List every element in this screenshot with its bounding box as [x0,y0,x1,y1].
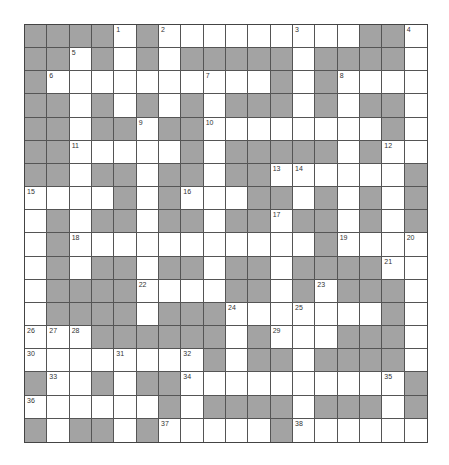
grid-cell[interactable] [360,233,382,256]
grid-cell[interactable] [70,187,92,210]
grid-cell[interactable] [226,349,248,372]
grid-cell[interactable]: 12 [382,141,404,164]
grid-cell[interactable] [293,233,315,256]
grid-cell[interactable] [204,372,226,395]
grid-cell[interactable] [338,118,360,141]
grid-cell[interactable] [181,71,203,94]
grid-cell[interactable] [25,303,47,326]
grid-cell[interactable]: 9 [137,118,159,141]
grid-cell[interactable] [159,48,181,71]
grid-cell[interactable] [293,48,315,71]
grid-cell[interactable] [382,210,404,233]
grid-cell[interactable] [70,210,92,233]
grid-cell[interactable] [382,187,404,210]
grid-cell[interactable] [226,372,248,395]
grid-cell[interactable] [114,419,136,442]
grid-cell[interactable] [405,349,427,372]
grid-cell[interactable] [248,303,270,326]
grid-cell[interactable] [315,118,337,141]
grid-cell[interactable] [92,71,114,94]
grid-cell[interactable] [293,326,315,349]
grid-cell[interactable] [70,349,92,372]
grid-cell[interactable] [382,71,404,94]
grid-cell[interactable]: 32 [181,349,203,372]
grid-cell[interactable] [204,233,226,256]
grid-cell[interactable]: 27 [47,326,69,349]
grid-cell[interactable] [70,118,92,141]
grid-cell[interactable]: 34 [181,372,203,395]
grid-cell[interactable] [248,372,270,395]
grid-cell[interactable] [338,25,360,48]
grid-cell[interactable] [181,419,203,442]
grid-cell[interactable] [293,187,315,210]
grid-cell[interactable] [405,326,427,349]
grid-cell[interactable] [405,280,427,303]
grid-cell[interactable] [70,257,92,280]
grid-cell[interactable] [159,94,181,117]
grid-cell[interactable] [382,396,404,419]
grid-cell[interactable] [248,71,270,94]
grid-cell[interactable] [360,303,382,326]
grid-cell[interactable] [70,71,92,94]
grid-cell[interactable] [226,187,248,210]
grid-cell[interactable] [382,419,404,442]
grid-cell[interactable] [293,71,315,94]
grid-cell[interactable] [25,257,47,280]
grid-cell[interactable] [137,71,159,94]
grid-cell[interactable]: 17 [271,210,293,233]
grid-cell[interactable] [360,164,382,187]
grid-cell[interactable] [338,141,360,164]
grid-cell[interactable] [114,372,136,395]
grid-cell[interactable] [137,303,159,326]
grid-cell[interactable] [137,257,159,280]
grid-cell[interactable] [360,419,382,442]
grid-cell[interactable] [248,419,270,442]
grid-cell[interactable] [338,372,360,395]
grid-cell[interactable] [159,71,181,94]
grid-cell[interactable]: 29 [271,326,293,349]
grid-cell[interactable]: 13 [271,164,293,187]
grid-cell[interactable] [338,187,360,210]
grid-cell[interactable] [271,233,293,256]
grid-cell[interactable] [315,303,337,326]
grid-cell[interactable] [137,210,159,233]
grid-cell[interactable] [204,419,226,442]
grid-cell[interactable] [405,419,427,442]
grid-cell[interactable] [293,94,315,117]
grid-cell[interactable] [181,396,203,419]
grid-cell[interactable]: 23 [315,280,337,303]
grid-cell[interactable] [114,94,136,117]
grid-cell[interactable] [204,164,226,187]
grid-cell[interactable] [405,94,427,117]
grid-cell[interactable] [114,233,136,256]
grid-cell[interactable] [338,94,360,117]
grid-cell[interactable] [315,372,337,395]
grid-cell[interactable] [248,25,270,48]
grid-cell[interactable] [405,257,427,280]
grid-cell[interactable]: 1 [114,25,136,48]
grid-cell[interactable] [360,372,382,395]
grid-cell[interactable] [338,419,360,442]
grid-cell[interactable] [47,349,69,372]
grid-cell[interactable] [159,349,181,372]
grid-cell[interactable] [159,280,181,303]
grid-cell[interactable] [293,118,315,141]
grid-cell[interactable] [204,141,226,164]
grid-cell[interactable] [92,396,114,419]
grid-cell[interactable] [338,164,360,187]
grid-cell[interactable] [70,396,92,419]
grid-cell[interactable]: 10 [204,118,226,141]
grid-cell[interactable] [92,233,114,256]
grid-cell[interactable] [204,280,226,303]
grid-cell[interactable] [315,419,337,442]
grid-cell[interactable] [226,25,248,48]
grid-cell[interactable] [25,280,47,303]
grid-cell[interactable] [114,71,136,94]
grid-cell[interactable] [114,48,136,71]
grid-cell[interactable]: 22 [137,280,159,303]
grid-cell[interactable] [293,349,315,372]
grid-cell[interactable]: 24 [226,303,248,326]
grid-cell[interactable] [405,118,427,141]
grid-cell[interactable]: 6 [47,71,69,94]
grid-cell[interactable] [382,233,404,256]
